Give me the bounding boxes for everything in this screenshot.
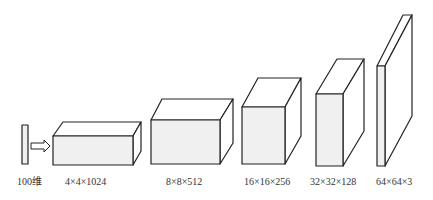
layer-label-2: 8×8×512 (166, 175, 202, 189)
arrow-icon (31, 140, 50, 152)
layer-label-1: 4×4×1024 (65, 175, 106, 189)
layer-label-5: 64×64×3 (376, 175, 412, 189)
layer-block-4 (316, 59, 364, 166)
layer-block-1 (53, 122, 141, 165)
input-vector (22, 125, 28, 164)
input-label: 100维 (17, 175, 42, 189)
layer-block-3 (242, 78, 301, 164)
layer-label-3: 16×16×256 (244, 175, 290, 189)
layer-label-4: 32×32×128 (310, 175, 356, 189)
layer-block-2 (151, 99, 233, 164)
diagram-canvas (0, 0, 433, 200)
layer-block-5 (377, 15, 412, 166)
